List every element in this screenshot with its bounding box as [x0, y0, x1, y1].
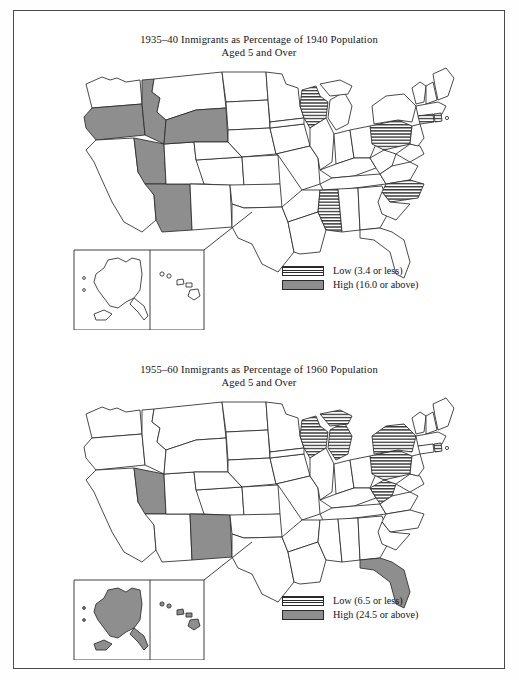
state-rhode-island-dot: [445, 116, 448, 119]
state-new-jersey: [410, 124, 424, 146]
figure-page: 1935–40 Inmigrants as Percentage of 1940…: [0, 0, 519, 680]
figure-2-title-line-1: 1955–60 Inmigrants as Percentage of 1960…: [49, 363, 469, 376]
state-pennsylvania: [370, 120, 412, 150]
state-minnesota: [266, 72, 304, 122]
legend-row-high: High (16.0 or above): [282, 279, 418, 292]
hawaii-maui: [177, 609, 184, 615]
state-oregon: [84, 104, 145, 140]
hawaii-oahu: [167, 274, 171, 278]
hawaii-maui: [177, 279, 184, 285]
state-colorado: [196, 487, 244, 516]
state-alabama: [338, 188, 360, 232]
us-map-1955-60-svg: [14, 392, 506, 660]
legend-swatch-low-icon: [282, 266, 324, 276]
state-missouri: [276, 476, 320, 520]
state-maryland: [396, 144, 424, 162]
alaska-island-1: [83, 606, 86, 609]
state-alaska-panhandle: [130, 298, 148, 320]
hawaii-kauai: [160, 602, 164, 606]
state-connecticut: [418, 444, 434, 454]
legend-swatch-high-icon: [282, 280, 324, 290]
legend-label-low: Low (6.5 or less): [333, 595, 403, 608]
state-new-mexico: [190, 184, 232, 230]
legend-row-low: Low (6.5 or less): [282, 595, 418, 608]
state-minnesota: [266, 402, 304, 452]
state-oregon: [84, 434, 145, 470]
legend-label-low: Low (3.4 or less): [333, 265, 403, 278]
page-frame: 1935–40 Inmigrants as Percentage of 1940…: [13, 10, 505, 669]
state-north-dakota: [222, 72, 268, 102]
hawaii-molokai: [186, 283, 192, 287]
legend-swatch-high-icon: [282, 610, 324, 620]
figure-2-title-line-2: Aged 5 and Over: [49, 376, 469, 389]
hawaii-big-island: [188, 289, 200, 300]
us-map-1935-40-svg: [14, 62, 506, 330]
legend-label-high: High (16.0 or above): [333, 279, 418, 292]
state-oklahoma: [230, 514, 282, 538]
state-north-carolina: [382, 180, 424, 202]
state-south-dakota: [226, 100, 270, 130]
state-new-york: [372, 94, 416, 124]
hawaii-kauai: [160, 272, 164, 276]
state-hawaii: [160, 272, 200, 300]
state-oklahoma: [230, 184, 282, 208]
state-michigan-up: [320, 80, 352, 96]
legend-1935-40: Low (3.4 or less) High (16.0 or above): [282, 265, 418, 293]
map-1955-60: Low (6.5 or less) High (24.5 or above): [14, 392, 506, 660]
state-kansas: [242, 485, 280, 516]
state-colorado: [196, 157, 244, 186]
hawaii-oahu: [167, 604, 171, 608]
legend-row-high: High (24.5 or above): [282, 609, 418, 622]
figure-2-title: 1955–60 Inmigrants as Percentage of 1960…: [49, 363, 469, 390]
state-new-york: [372, 424, 416, 454]
state-pennsylvania: [370, 450, 412, 480]
state-michigan-up: [320, 410, 352, 426]
state-new-mexico: [190, 514, 232, 560]
legend-1955-60: Low (6.5 or less) High (24.5 or above): [282, 595, 418, 623]
state-alabama: [338, 518, 360, 562]
figure-1935-40: 1935–40 Inmigrants as Percentage of 1940…: [14, 33, 504, 330]
figure-1955-60: 1955–60 Inmigrants as Percentage of 1960…: [14, 363, 504, 660]
state-connecticut: [418, 114, 434, 124]
figure-1-title: 1935–40 Inmigrants as Percentage of 1940…: [49, 33, 469, 60]
hawaii-molokai: [186, 613, 192, 617]
alaska-island-1: [83, 276, 86, 279]
state-alaska-aleutians: [94, 310, 112, 320]
state-rhode-island: [434, 113, 442, 122]
state-rhode-island: [434, 443, 442, 452]
legend-swatch-low-icon: [282, 596, 324, 606]
state-washington: [86, 407, 142, 438]
legend-label-high: High (24.5 or above): [333, 609, 418, 622]
state-north-dakota: [222, 402, 268, 432]
state-alaska-aleutians: [94, 640, 112, 650]
state-south-dakota: [226, 430, 270, 460]
alaska-island-2: [83, 288, 86, 291]
alaska-island-2: [83, 618, 86, 621]
state-alaska-panhandle: [130, 628, 148, 650]
figure-1-title-line-1: 1935–40 Inmigrants as Percentage of 1940…: [49, 33, 469, 46]
map-1935-40: Low (3.4 or less) High (16.0 or above): [14, 62, 506, 330]
state-vermont: [412, 412, 426, 434]
state-washington: [86, 77, 142, 108]
legend-row-low: Low (3.4 or less): [282, 265, 418, 278]
state-missouri: [276, 146, 320, 190]
state-michigan: [328, 92, 352, 130]
state-north-carolina: [382, 510, 424, 532]
state-kansas: [242, 155, 280, 186]
state-vermont: [412, 82, 426, 104]
hawaii-big-island: [188, 619, 200, 630]
state-rhode-island-dot: [445, 446, 448, 449]
state-hawaii: [160, 602, 200, 630]
state-maryland: [396, 474, 424, 492]
state-michigan: [328, 422, 352, 460]
state-new-jersey: [410, 454, 424, 476]
figure-1-title-line-2: Aged 5 and Over: [49, 46, 469, 59]
